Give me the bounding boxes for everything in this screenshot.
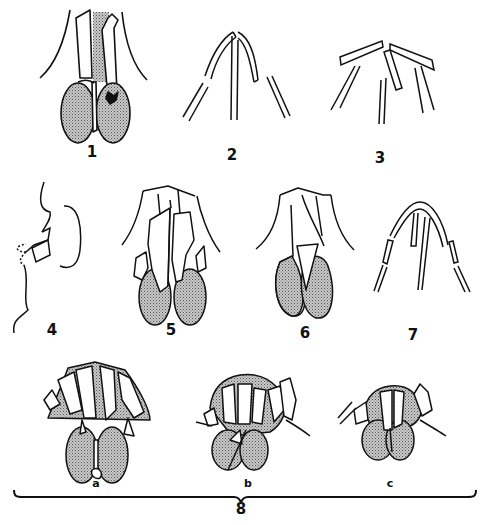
panel-6-drawing xyxy=(256,188,354,318)
panel-1-drawing xyxy=(40,10,147,143)
panel-label-7: 7 xyxy=(408,328,418,343)
panel-8a-drawing xyxy=(44,362,150,483)
subpanel-label-a: a xyxy=(92,478,99,489)
group-label-8: 8 xyxy=(236,502,246,517)
panel-7-drawing xyxy=(374,202,470,292)
panel-label-4: 4 xyxy=(47,323,57,338)
subpanel-label-c: c xyxy=(387,478,394,489)
panel-label-5: 5 xyxy=(166,323,176,338)
panel-8b-drawing xyxy=(196,374,310,470)
panel-3-drawing xyxy=(331,41,434,124)
panel-label-3: 3 xyxy=(375,151,385,166)
panel-label-6: 6 xyxy=(300,326,310,341)
subpanel-label-b: b xyxy=(244,478,252,489)
panel-label-1: 1 xyxy=(87,145,97,160)
panel-4-drawing xyxy=(14,182,81,333)
panel-5-drawing xyxy=(122,186,220,325)
panel-label-2: 2 xyxy=(227,148,237,163)
figure-canvas xyxy=(0,0,489,525)
panel-8c-drawing xyxy=(338,384,446,460)
panel-2-drawing xyxy=(183,32,290,121)
